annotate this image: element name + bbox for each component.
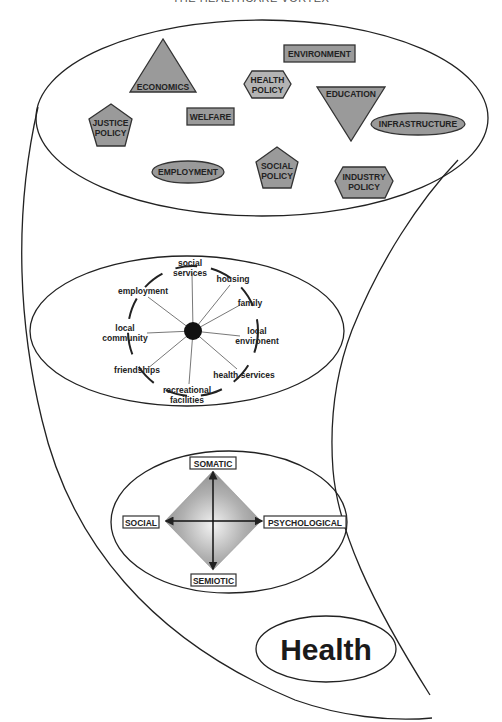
shape-justice-policy: JUSTICE POLICY bbox=[89, 104, 132, 146]
justice-policy-label-2: POLICY bbox=[95, 128, 127, 138]
shape-social-policy: SOCIAL POLICY bbox=[256, 147, 298, 188]
label-employment: employment bbox=[118, 286, 168, 296]
axis-label-psychological: PSYCHOLOGICAL bbox=[264, 516, 346, 528]
label-family: family bbox=[238, 298, 263, 308]
vortex-outline bbox=[22, 107, 458, 719]
label-local-community-2: community bbox=[102, 333, 148, 343]
justice-policy-label-1: JUSTICE bbox=[93, 118, 129, 128]
education-label: EDUCATION bbox=[326, 89, 376, 99]
health-policy-label-2: POLICY bbox=[252, 85, 284, 95]
health-vortex-diagram: ECONOMICS ENVIRONMENT HEALTH POLICY EDUC… bbox=[0, 0, 502, 722]
welfare-label: WELFARE bbox=[190, 112, 232, 122]
individual-layer: SOMATIC SEMIOTIC SOCIAL PSYCHOLOGICAL bbox=[111, 451, 347, 593]
community-layer: social services housing family local env… bbox=[30, 256, 344, 406]
svg-text:PSYCHOLOGICAL: PSYCHOLOGICAL bbox=[268, 518, 342, 528]
infrastructure-label: INFRASTRUCTURE bbox=[379, 119, 458, 129]
label-local-environment-2: environent bbox=[235, 336, 279, 346]
label-social-services-2: services bbox=[173, 268, 207, 278]
health-policy-label-1: HEALTH bbox=[251, 75, 285, 85]
social-policy-label-2: POLICY bbox=[261, 171, 293, 181]
shape-employment: EMPLOYMENT bbox=[152, 161, 224, 183]
label-social-services-1: social bbox=[178, 258, 202, 268]
social-policy-label-1: SOCIAL bbox=[261, 161, 293, 171]
shape-industry-policy: INDUSTRY POLICY bbox=[335, 167, 393, 198]
label-recreational-facilities-2: facilities bbox=[170, 395, 204, 405]
axis-label-semiotic: SEMIOTIC bbox=[191, 574, 236, 586]
economics-label: ECONOMICS bbox=[137, 82, 190, 92]
shape-health-policy: HEALTH POLICY bbox=[244, 71, 291, 98]
label-local-environment-1: local bbox=[247, 326, 266, 336]
axis-label-somatic: SOMATIC bbox=[190, 457, 236, 469]
axis-label-social: SOCIAL bbox=[123, 516, 159, 528]
industry-policy-label-2: POLICY bbox=[348, 182, 380, 192]
health-outcome: Health bbox=[256, 616, 396, 682]
label-health-services: health services bbox=[213, 370, 275, 380]
label-recreational-facilities-1: recreational bbox=[163, 385, 211, 395]
shape-welfare: WELFARE bbox=[187, 108, 234, 125]
label-friendships: friendships bbox=[114, 365, 160, 375]
shape-economics: ECONOMICS bbox=[130, 39, 196, 92]
shape-infrastructure: INFRASTRUCTURE bbox=[371, 113, 465, 135]
label-local-community-1: local bbox=[115, 323, 134, 333]
shape-education: EDUCATION bbox=[317, 87, 385, 141]
industry-policy-label-1: INDUSTRY bbox=[342, 172, 385, 182]
environment-label: ENVIRONMENT bbox=[288, 49, 352, 59]
label-housing: housing bbox=[216, 274, 249, 284]
vortex-right-edge bbox=[332, 160, 458, 695]
health-label: Health bbox=[280, 633, 372, 666]
svg-text:SOCIAL: SOCIAL bbox=[125, 518, 157, 528]
employment-label: EMPLOYMENT bbox=[158, 167, 219, 177]
svg-text:SOMATIC: SOMATIC bbox=[194, 459, 233, 469]
shape-environment: ENVIRONMENT bbox=[284, 45, 355, 62]
policy-layer: ECONOMICS ENVIRONMENT HEALTH POLICY EDUC… bbox=[36, 20, 488, 216]
individual-center-dot bbox=[184, 322, 202, 340]
svg-text:SEMIOTIC: SEMIOTIC bbox=[193, 576, 234, 586]
